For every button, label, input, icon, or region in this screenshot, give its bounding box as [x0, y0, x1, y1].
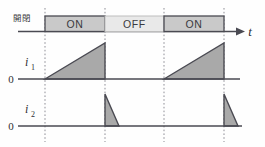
- waveform-i1-zero-label: 0: [8, 73, 14, 85]
- waveform-i2-subscript: 2: [31, 110, 35, 119]
- timing-diagram: ON OFF ON 開閉 t i 1 0 i 2 0: [0, 0, 265, 147]
- waveform-i1: i 1 0: [8, 43, 240, 85]
- time-axis-arrow-icon: [236, 28, 245, 36]
- waveform-i2-zero-label: 0: [8, 120, 14, 132]
- waveform-i2-label: i: [25, 102, 28, 116]
- switch-state-label-off: OFF: [123, 18, 146, 30]
- switch-row: ON OFF ON 開閉 t: [13, 13, 252, 39]
- waveform-i2: i 2 0: [8, 94, 242, 132]
- waveform-i2-ramp-2: [224, 94, 238, 126]
- waveform-i1-ramp-2: [164, 43, 224, 79]
- switch-state-label-on-1: ON: [67, 18, 84, 30]
- waveform-i1-subscript: 1: [31, 63, 35, 72]
- waveform-i1-ramp-1: [45, 43, 105, 79]
- switch-row-label: 開閉: [13, 13, 31, 23]
- switch-state-label-on-2: ON: [186, 18, 203, 30]
- waveform-i1-label: i: [25, 55, 28, 69]
- waveform-i2-ramp-1: [105, 94, 119, 126]
- time-axis-label: t: [248, 24, 252, 39]
- figure-canvas: ON OFF ON 開閉 t i 1 0 i 2 0: [0, 0, 265, 147]
